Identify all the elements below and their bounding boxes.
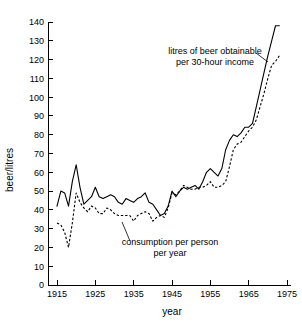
y-tick-label: 70 — [34, 149, 44, 159]
y-tick-label: 80 — [34, 130, 44, 140]
x-tick-label: 1925 — [85, 289, 105, 299]
y-tick-label: 120 — [29, 55, 44, 65]
y-tick-label: 50 — [34, 186, 44, 196]
x-tick-label: 1965 — [239, 289, 259, 299]
x-tick-label: 1915 — [47, 289, 67, 299]
y-tick-label: 20 — [34, 243, 44, 253]
beer-line-chart: 0102030405060708090100110120130140 19151… — [0, 0, 302, 325]
y-tick-label: 40 — [34, 205, 44, 215]
solid-annotation-line1: litres of beer obtainable — [168, 46, 262, 56]
y-tick-label: 10 — [34, 262, 44, 272]
y-tick-label: 130 — [29, 36, 44, 46]
dashed-annotation-line2: per year — [153, 248, 186, 258]
x-tick-label: 1975 — [277, 289, 297, 299]
y-axis-title: beer/litres — [4, 148, 15, 192]
y-tick-label: 140 — [29, 17, 44, 27]
x-axis-title: year — [162, 306, 182, 317]
x-axis-ticks: 1915192519351945195519651975 — [47, 280, 297, 299]
dashed-annotation-line1: consumption per person — [122, 237, 219, 247]
solid-annotation-leader — [256, 53, 268, 62]
y-tick-label: 60 — [34, 168, 44, 178]
x-tick-label: 1955 — [200, 289, 220, 299]
chart-figure: 0102030405060708090100110120130140 19151… — [0, 0, 302, 325]
y-tick-label: 90 — [34, 111, 44, 121]
series-line-dashed — [57, 56, 279, 248]
solid-series-annotation: litres of beer obtainable per 30-hour in… — [168, 46, 268, 67]
y-tick-label: 100 — [29, 93, 44, 103]
x-tick-label: 1945 — [162, 289, 182, 299]
y-axis-ticks: 0102030405060708090100110120130140 — [29, 17, 53, 290]
y-tick-label: 110 — [30, 74, 44, 84]
y-tick-label: 30 — [34, 224, 44, 234]
solid-annotation-line2: per 30-hour income — [176, 57, 254, 67]
x-tick-label: 1935 — [124, 289, 144, 299]
dashed-series-annotation: consumption per person per year — [122, 222, 219, 258]
y-tick-label: 0 — [39, 280, 44, 290]
